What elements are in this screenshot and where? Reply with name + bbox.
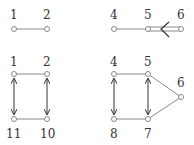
- label-11: 11: [6, 127, 21, 141]
- node-1: [12, 27, 17, 32]
- node-1: [12, 72, 17, 77]
- panel-bottom-right: 4 5 6 8 7: [110, 55, 185, 141]
- label-2: 2: [43, 55, 51, 69]
- panel-top-left: 1 2: [10, 8, 51, 32]
- node-8: [112, 117, 117, 122]
- label-1: 1: [10, 55, 18, 69]
- panel-bottom-left: 1 2 11 10: [6, 55, 55, 141]
- node-5: [146, 27, 151, 32]
- label-8: 8: [110, 127, 118, 141]
- node-6: [179, 95, 184, 100]
- chevron-left-icon: [161, 22, 169, 37]
- node-6: [179, 27, 184, 32]
- node-11: [12, 117, 17, 122]
- node-4: [112, 72, 117, 77]
- node-2: [45, 72, 50, 77]
- node-2: [45, 27, 50, 32]
- label-6: 6: [177, 76, 185, 90]
- label-6: 6: [177, 8, 185, 22]
- label-7: 7: [144, 127, 152, 141]
- label-10: 10: [40, 127, 55, 141]
- label-2: 2: [43, 8, 51, 22]
- graph-diagram: 1 2 4 5 6 1 2 11 10: [0, 0, 194, 145]
- label-4: 4: [110, 55, 118, 69]
- node-5: [146, 72, 151, 77]
- label-5: 5: [144, 55, 152, 69]
- label-1: 1: [10, 8, 18, 22]
- label-4: 4: [110, 8, 118, 22]
- edge-7-6: [148, 97, 181, 119]
- panel-top-right: 4 5 6: [110, 8, 185, 37]
- node-10: [45, 117, 50, 122]
- node-4: [112, 27, 117, 32]
- label-5: 5: [144, 8, 152, 22]
- node-7: [146, 117, 151, 122]
